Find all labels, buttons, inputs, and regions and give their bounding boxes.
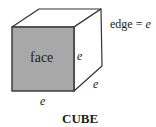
edge-definition-text: edge = (110, 17, 145, 31)
face-label: face (30, 51, 53, 65)
edge-definition: edge = e (110, 18, 151, 30)
edge-label-front-bottom: e (40, 95, 45, 107)
edge-label-depth: e (93, 78, 98, 90)
edge-definition-variable: e (145, 17, 150, 31)
diagram-title: CUBE (62, 112, 98, 125)
edge-label-front-right: e (77, 50, 82, 62)
